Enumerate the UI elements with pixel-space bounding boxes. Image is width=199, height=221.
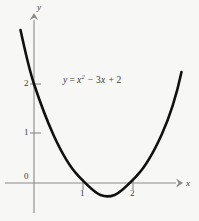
graph-figure: y x 0 2 1 1 2 y=x2− 3x+ 2 <box>0 0 199 221</box>
x-axis-label: x <box>186 179 190 188</box>
equation-annotation: y=x2− 3x+ 2 <box>63 76 121 86</box>
equation-equals: = <box>69 75 75 85</box>
equation-term2-var: x <box>101 75 105 85</box>
x-axis-arrow-icon <box>176 179 183 188</box>
y-tick-label-1: 1 <box>24 128 29 137</box>
y-axis-label: y <box>37 3 41 12</box>
origin-tick-label: 0 <box>24 172 29 181</box>
y-tick-label-2: 2 <box>24 79 29 88</box>
equation-lhs: y <box>63 75 67 85</box>
equation-term2: − 3 <box>88 75 101 85</box>
equation-term3: + 2 <box>108 75 121 85</box>
y-axis-arrow-icon <box>30 13 38 20</box>
x-tick-label-2: 2 <box>130 189 135 198</box>
plot-canvas <box>0 0 199 221</box>
equation-term1-exponent: 2 <box>81 73 84 80</box>
parabola-curve <box>21 30 182 196</box>
x-tick-label-1: 1 <box>80 189 85 198</box>
